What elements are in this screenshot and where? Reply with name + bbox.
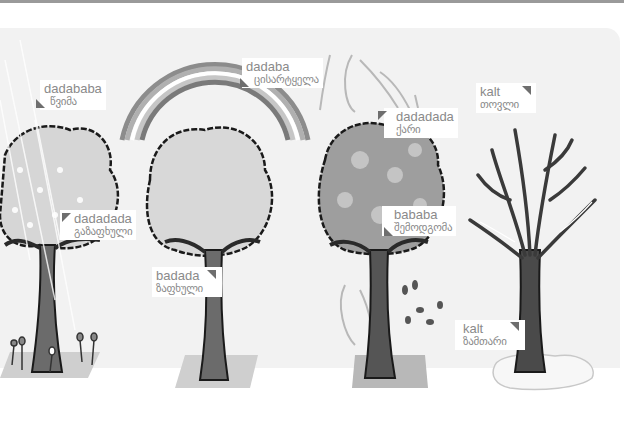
label-wind-en: dadadada (388, 110, 454, 124)
label-rain-ka: წვიმა (44, 96, 102, 108)
label-wind: dadadada ქარი (384, 108, 458, 138)
label-rain-en: dadababa (44, 82, 102, 96)
label-spring-ka: გაზაფხული (64, 226, 132, 238)
marker-summer-icon (207, 270, 216, 279)
label-summer-ka: ზაფხული (156, 283, 218, 295)
label-spring-en: dadadada (64, 212, 132, 226)
autumn-tree (319, 123, 444, 388)
marker-spring-icon (62, 213, 71, 222)
winter-tree (470, 130, 595, 390)
marker-rainbow-icon (240, 78, 249, 87)
label-winter-ka: ზამთარი (459, 336, 521, 348)
label-wind-ka: ქარი (388, 124, 454, 136)
label-autumn-en: bababa (386, 208, 452, 222)
label-rain: dadababa წვიმა (40, 80, 106, 110)
marker-wind-icon (378, 111, 387, 120)
marker-snow-icon (522, 86, 531, 95)
marker-winter-icon (510, 322, 519, 331)
marker-autumn-icon (384, 227, 393, 236)
summer-tree (147, 127, 272, 388)
label-rainbow-ka: ცისარტყელა (246, 74, 319, 86)
label-spring: dadadada გაზაფხული (60, 210, 136, 240)
label-rainbow: dadaba ცისარტყელა (242, 58, 323, 88)
label-autumn: bababa შემოდგომა (382, 206, 456, 236)
label-autumn-ka: შემოდგომა (386, 222, 452, 234)
label-snow-ka: თოვლი (480, 99, 532, 111)
marker-rain-icon (36, 99, 45, 108)
label-rainbow-en: dadaba (246, 60, 319, 74)
